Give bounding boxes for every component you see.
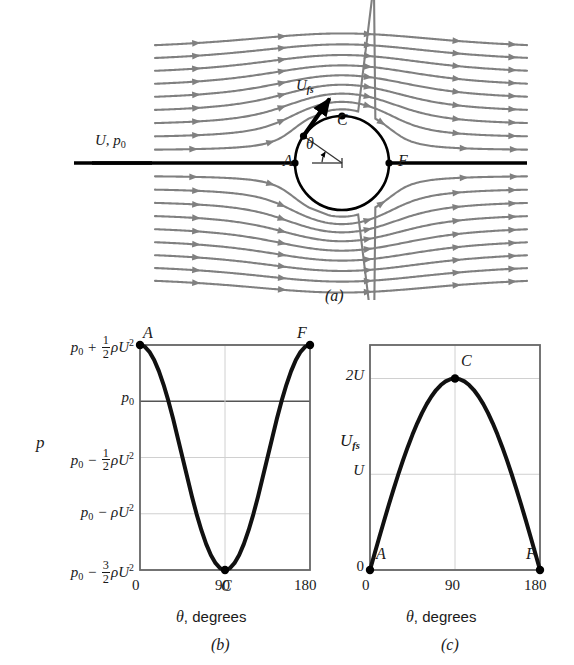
streamline-arrowhead [192,40,201,47]
streamline-arrowhead [508,278,517,285]
point-marker-F [385,159,392,166]
streamline-arrowhead [508,106,517,113]
data-point-marker-F [306,341,314,349]
streamline-arrowhead [192,92,201,99]
streamline-arrowhead [189,146,198,153]
streamline-arrowhead [363,83,372,90]
streamline-arrowhead [192,118,201,125]
point-label-F: F [398,153,408,169]
streamline-arrowhead [192,65,201,72]
streamline-arrowhead [508,132,517,139]
streamline-arrowhead [508,93,517,100]
streamline-arrowhead [363,218,372,225]
data-point-marker-F [536,566,544,574]
streamline-arrowhead [363,236,372,243]
streamline-arrowhead [363,102,372,109]
streamline-arrowhead [364,267,373,274]
panel-b-axis-label-p: p [36,434,45,451]
streamline-arrowhead [266,179,275,186]
data-point-marker-C [221,566,229,574]
ytick-label: 0 [320,559,364,574]
streamline-arrowhead [192,132,201,139]
panel-b-xaxis-caption: θ, degrees [176,609,246,625]
streamline-arrowhead [460,145,469,152]
xtick-label: 0 [132,578,140,593]
streamline-arrowhead [510,173,519,180]
streamline-arrowhead [508,79,517,86]
streamline-arrowhead [192,201,201,208]
streamline-arrowhead [277,214,286,220]
streamline-arrowhead [508,54,517,61]
xtick-label: 180 [524,578,547,593]
data-point-marker-C [451,374,459,382]
streamline-arrowhead [277,105,286,111]
streamline-arrowhead [192,228,201,235]
streamline [155,55,527,71]
surface-speed-label: Ufs [296,78,314,95]
streamline-arrowhead [508,227,517,234]
streamline-arrowhead [508,266,517,273]
streamline-arrowhead [376,118,385,126]
ytick-label: 2U [320,368,364,383]
streamline-arrowhead [364,278,373,285]
ytick-label: p0 + 12ρU2 [0,334,134,360]
streamline-arrowhead [189,173,198,180]
streamline-arrowhead [277,201,286,208]
data-point-marker-A [136,341,144,349]
streamline-arrowhead [508,119,517,126]
point-label-C: C [337,112,348,128]
streamline-arrowhead [376,201,385,209]
streamline-arrowhead [508,253,517,260]
curve-point-label-C: C [221,578,232,594]
ytick-label: p0 − 32ρU2 [0,559,134,585]
curve-point-label-F: F [297,325,307,341]
streamline-arrowhead [508,41,517,48]
xtick-label: 90 [445,578,460,593]
panel-c-xaxis-caption: θ, degrees [406,609,476,625]
data-point-marker-A [366,566,374,574]
streamline-arrowhead [364,52,373,59]
point-label-A: A [283,153,293,169]
streamline-arrowhead [192,279,201,286]
streamline [155,216,527,241]
curve-point-label-A: A [376,546,386,562]
caption-a: (a) [325,288,344,304]
streamline-arrowhead [192,105,201,112]
streamline-arrowhead [266,140,275,147]
panel-a-flow-diagram [0,0,574,300]
xtick-label: 180 [294,578,317,593]
streamline-arrowhead [508,200,517,207]
streamline-arrowhead [192,187,201,194]
caption-b: (b) [211,637,230,653]
streamline-arrowhead [278,68,287,75]
streamline-arrowhead [192,53,201,60]
streamline-arrowhead [192,241,201,248]
streamline-arrowhead [278,251,287,258]
streamline-arrowhead [192,267,201,274]
streamline-arrowhead [508,66,517,73]
streamline-arrowhead [364,42,373,49]
streamline-arrowhead [508,213,517,220]
streamline-arrowhead [192,214,201,221]
panel-c-axis-label-ufs: Ufs [340,432,360,451]
curve-point-label-A: A [143,325,153,341]
streamline-arrowhead [192,78,201,85]
xtick-label: 0 [362,578,370,593]
streamline-arrowhead [508,187,517,194]
streamline-arrowhead [510,146,519,153]
caption-c: (c) [441,637,459,653]
streamline-arrowhead [460,174,469,181]
streamline-arrowhead [277,119,286,126]
theta-label-panel-a: θ [306,136,314,152]
ytick-label: U [320,463,364,478]
streamline-arrowhead [192,254,201,261]
streamline-arrowhead [508,240,517,247]
ytick-label: p0 − 12ρU2 [0,447,134,473]
figure-root: U, p0 Ufs θ A C F (a) p0 + 12ρU2p0p0 − 1… [0,0,574,665]
curve-point-label-F: F [526,546,536,562]
streamline [155,85,527,110]
streamline [155,255,527,271]
panel-b-chart [110,335,340,595]
ytick-label: p0 − ρU2 [0,503,134,522]
curve-point-label-C: C [461,353,472,369]
